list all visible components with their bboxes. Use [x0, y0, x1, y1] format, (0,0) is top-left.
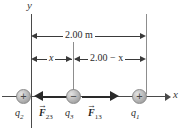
charge-sign-q2: +: [17, 90, 30, 103]
charge-sphere-q2: +: [16, 89, 31, 104]
force-subscript: 23: [46, 113, 53, 121]
charge-label-q2: q2: [15, 107, 24, 121]
force-subscript: 13: [95, 113, 102, 121]
charge-sign-q3: −: [67, 90, 80, 103]
charge-label-q3: q3: [65, 107, 74, 121]
y-axis-label: y: [27, 0, 32, 11]
dimension-arrow-left-icon: [74, 56, 80, 62]
charge-label-subscript: 2: [20, 113, 24, 121]
guide-line-middle: [73, 42, 74, 94]
charge-label-q1: q1: [131, 107, 140, 121]
force-symbol: →F: [88, 107, 95, 118]
charge-sign-q1: +: [133, 90, 146, 103]
dimension-label-right-segment: 2.00 − x: [88, 52, 125, 63]
charge-sphere-q1: +: [132, 89, 147, 104]
dimension-label-total: 2.00 m: [63, 29, 95, 40]
charge-label-subscript: 1: [136, 113, 140, 121]
x-axis-arrowhead-icon: [165, 93, 171, 101]
force-symbol: →F: [39, 107, 46, 118]
dimension-arrow-left-icon: [31, 56, 37, 62]
vector-accent-icon: →: [87, 101, 96, 110]
charge-sphere-q3: −: [66, 89, 81, 104]
charge-label-subscript: 3: [70, 113, 74, 121]
vector-accent-icon: →: [38, 101, 47, 110]
force-label-f23: →F23: [39, 107, 53, 121]
dimension-arrow-left-icon: [31, 33, 37, 39]
dimension-arrow-right-icon: [140, 33, 146, 39]
y-axis-line: [31, 14, 32, 128]
guide-line-right: [146, 14, 147, 94]
force-vector-f13-arrowhead-icon: [110, 91, 119, 101]
force-vector-f23-shaft: [43, 96, 67, 98]
dimension-arrow-right-icon: [66, 56, 72, 62]
dimension-arrow-right-icon: [140, 56, 146, 62]
force-diagram-figure: y x 2.00 m x 2.00 − x →F23 →F13 + − + q2…: [0, 0, 187, 128]
dimension-label-left-segment: x: [47, 52, 55, 63]
force-label-f13: →F13: [88, 107, 102, 121]
force-vector-f13-shaft: [82, 96, 110, 98]
x-axis-label: x: [173, 88, 178, 100]
